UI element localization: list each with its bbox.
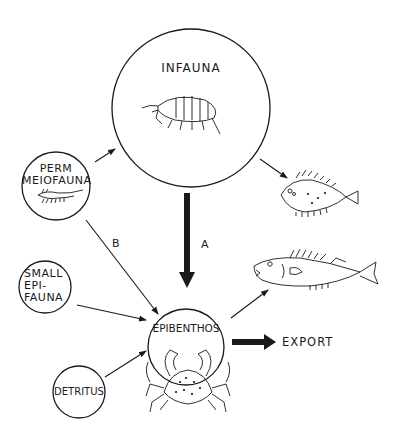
edge-b-label: B xyxy=(112,237,120,250)
small-epifauna-label: SMALL EPI- FAUNA xyxy=(20,268,76,304)
epibenthos-node xyxy=(148,309,224,385)
perm-meiofauna-label: PERM MEIOFAUNA xyxy=(22,163,90,187)
edge-meiofauna-to-infauna xyxy=(95,149,115,162)
small-epifauna-label-line3: FAUNA xyxy=(24,292,76,304)
edge-b-meiofauna-to-epibenthos xyxy=(86,220,158,314)
food-web-diagram: INFAUNA PERM MEIOFAUNA SMALL EPI- FAUNA … xyxy=(0,0,399,442)
edge-infauna-to-flatfish xyxy=(260,159,287,178)
perm-meiofauna-label-line2: MEIOFAUNA xyxy=(22,175,90,187)
infauna-label: INFAUNA xyxy=(151,62,231,74)
export-label: EXPORT xyxy=(282,336,342,348)
copepod-icon xyxy=(38,189,83,203)
amphipod-icon xyxy=(142,96,220,134)
detritus-label: DETRITUS xyxy=(52,386,106,398)
epibenthos-label: EPIBENTHOS xyxy=(148,322,224,334)
edge-detritus-to-epibenthos xyxy=(105,351,146,377)
infauna-node xyxy=(112,29,270,187)
crab-icon xyxy=(146,350,230,412)
edge-a-infauna-to-epibenthos xyxy=(179,193,195,288)
edge-a-label: A xyxy=(201,238,209,251)
flatfish-icon xyxy=(281,170,358,217)
roundfish-icon xyxy=(254,249,378,290)
edge-epibenthos-to-export xyxy=(232,334,276,350)
edge-epifauna-to-epibenthos xyxy=(77,305,146,320)
edge-epibenthos-to-roundfish xyxy=(231,290,268,318)
